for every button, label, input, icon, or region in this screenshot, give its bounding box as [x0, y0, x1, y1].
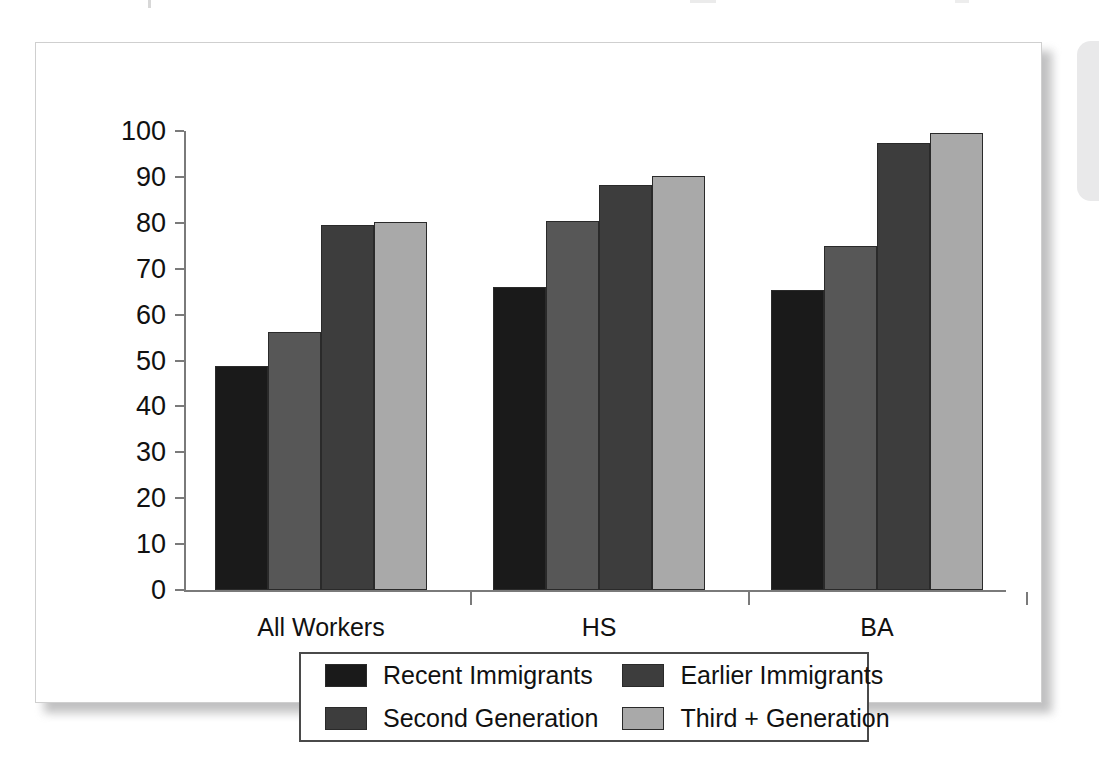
y-axis-tick-label: 0 [70, 577, 166, 604]
bleed-mark [955, 0, 969, 3]
legend-item: Recent Immigrants [301, 663, 598, 688]
legend-item: Third + Generation [598, 706, 889, 731]
legend-swatch [622, 664, 664, 687]
legend-label: Third + Generation [680, 706, 889, 731]
page-root: 0102030405060708090100 All WorkersHSBA R… [0, 0, 1099, 770]
y-axis-tick-label: 50 [70, 347, 166, 374]
bar [930, 133, 983, 590]
bar [321, 225, 374, 590]
bar [215, 366, 268, 590]
y-axis-tick [175, 314, 184, 316]
y-axis-tick [175, 543, 184, 545]
bar [877, 143, 930, 590]
x-axis-category-label: All Workers [257, 613, 384, 642]
bleed-mark [148, 0, 151, 8]
x-axis-category-label: BA [860, 613, 893, 642]
y-axis-tick-label: 20 [70, 485, 166, 512]
y-axis-tick [175, 451, 184, 453]
y-axis-tick [175, 497, 184, 499]
y-axis-tick-label: 30 [70, 439, 166, 466]
y-axis-tick [175, 130, 184, 132]
legend-label: Second Generation [383, 706, 598, 731]
y-axis-tick-label: 90 [70, 163, 166, 190]
page-edge-element [1077, 41, 1099, 201]
y-axis-tick-label: 60 [70, 301, 166, 328]
y-axis-tick-label: 80 [70, 209, 166, 236]
y-axis-tick [175, 360, 184, 362]
legend-swatch [325, 664, 367, 687]
y-axis-tick-label: 100 [70, 118, 166, 145]
bar [652, 176, 705, 590]
y-axis-tick-label: 40 [70, 393, 166, 420]
x-axis-tick [748, 592, 750, 605]
chart-legend: Recent ImmigrantsEarlier ImmigrantsSecon… [299, 652, 869, 742]
bar [771, 290, 824, 590]
x-axis-category-label: HS [582, 613, 617, 642]
y-axis-labels: 0102030405060708090100 [36, 131, 184, 590]
y-axis-tick [175, 222, 184, 224]
y-axis-tick [175, 268, 184, 270]
legend-label: Recent Immigrants [383, 663, 593, 688]
legend-item: Earlier Immigrants [598, 663, 889, 688]
x-axis-tick [1026, 592, 1028, 605]
bleed-mark [690, 0, 716, 3]
legend-swatch [325, 707, 367, 730]
x-axis-line [184, 590, 1006, 592]
bar [268, 332, 321, 590]
y-axis-tick-label: 10 [70, 531, 166, 558]
legend-label: Earlier Immigrants [680, 663, 883, 688]
y-axis-line [184, 131, 186, 590]
figure-panel: 0102030405060708090100 All WorkersHSBA R… [35, 42, 1042, 703]
y-axis-tick [175, 405, 184, 407]
bar [599, 185, 652, 590]
bar [374, 222, 427, 590]
bar [824, 246, 877, 590]
y-axis-tick-label: 70 [70, 255, 166, 282]
bar [546, 221, 599, 590]
legend-item: Second Generation [301, 706, 598, 731]
plot-area: All WorkersHSBA [184, 131, 1006, 590]
bar [493, 287, 546, 590]
legend-swatch [622, 707, 664, 730]
cropped-text-bleed [0, 0, 1099, 14]
y-axis-tick [175, 589, 184, 591]
x-axis-tick [470, 592, 472, 605]
y-axis-tick [175, 176, 184, 178]
